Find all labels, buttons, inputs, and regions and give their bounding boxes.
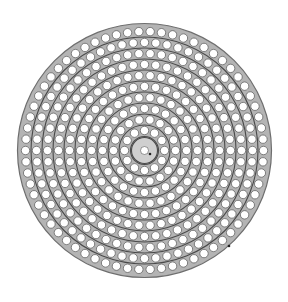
- hole: [171, 146, 179, 154]
- hole: [218, 56, 226, 64]
- hole: [189, 168, 197, 176]
- hole: [85, 114, 93, 122]
- hole: [97, 72, 105, 80]
- hole: [198, 68, 206, 76]
- marker-dot: [149, 153, 152, 156]
- hole: [117, 126, 125, 134]
- hole: [97, 221, 105, 229]
- hole: [193, 78, 201, 86]
- hole: [46, 124, 54, 132]
- hole: [221, 219, 229, 227]
- hole: [208, 179, 216, 187]
- hole: [169, 157, 177, 165]
- hole: [168, 31, 176, 39]
- hole: [237, 158, 245, 166]
- hole: [23, 169, 31, 177]
- hole: [214, 135, 222, 143]
- hole: [135, 243, 143, 251]
- hole: [152, 39, 160, 47]
- hole: [66, 189, 74, 197]
- hole: [112, 239, 120, 247]
- hole: [151, 209, 159, 217]
- hole: [85, 197, 93, 205]
- hole: [151, 187, 159, 195]
- hole: [259, 135, 267, 143]
- hole: [103, 81, 111, 89]
- hole: [259, 146, 267, 154]
- hole: [97, 177, 105, 185]
- hole: [61, 113, 69, 121]
- hole: [150, 164, 158, 172]
- hole: [189, 62, 197, 70]
- hole: [193, 215, 201, 223]
- hole: [215, 189, 223, 197]
- hole: [234, 92, 242, 100]
- hole: [135, 221, 143, 229]
- hole: [201, 207, 209, 215]
- hole: [71, 49, 79, 57]
- hole: [228, 210, 236, 218]
- hole: [200, 168, 208, 176]
- hole: [111, 157, 119, 165]
- hole: [55, 135, 63, 143]
- hole: [44, 158, 52, 166]
- hole: [157, 29, 165, 37]
- hole: [60, 219, 68, 227]
- hole: [101, 259, 109, 267]
- hole: [200, 124, 208, 132]
- hole: [73, 114, 81, 122]
- hole: [111, 117, 119, 125]
- hole: [22, 135, 30, 143]
- hole: [47, 92, 55, 100]
- hole: [146, 243, 154, 251]
- hole: [234, 220, 242, 228]
- hole: [33, 135, 41, 143]
- hole: [176, 107, 184, 115]
- hole: [65, 146, 73, 154]
- hole: [118, 63, 126, 71]
- hole: [77, 135, 85, 143]
- hole: [163, 41, 171, 49]
- hole: [234, 200, 242, 208]
- hole: [157, 197, 165, 205]
- hole: [248, 146, 256, 154]
- hole: [44, 135, 52, 143]
- hole: [167, 100, 175, 108]
- hole: [78, 104, 86, 112]
- hole: [109, 146, 117, 154]
- hole: [168, 239, 176, 247]
- hole: [239, 190, 247, 198]
- hole: [190, 38, 198, 46]
- hole: [86, 53, 94, 61]
- hole: [156, 173, 164, 181]
- hole: [102, 235, 110, 243]
- hole: [173, 226, 181, 234]
- hole: [99, 97, 107, 105]
- hole: [85, 95, 93, 103]
- hole: [170, 176, 178, 184]
- hole: [91, 38, 99, 46]
- hole: [183, 221, 191, 229]
- hole: [246, 169, 254, 177]
- hole: [105, 186, 113, 194]
- hole: [124, 219, 132, 227]
- hole: [76, 146, 84, 154]
- hole: [118, 229, 126, 237]
- hole: [157, 73, 165, 81]
- hole: [237, 135, 245, 143]
- hole: [226, 135, 234, 143]
- hole: [124, 73, 132, 81]
- hole: [156, 119, 164, 127]
- hole: [178, 211, 186, 219]
- hole: [77, 234, 85, 242]
- hole: [108, 202, 116, 210]
- hole: [129, 106, 137, 114]
- hole: [35, 124, 43, 132]
- hole: [62, 236, 70, 244]
- hole: [80, 168, 88, 176]
- hole: [35, 201, 43, 209]
- hole: [62, 56, 70, 64]
- hole: [208, 114, 216, 122]
- hole: [91, 255, 99, 263]
- hole: [88, 215, 96, 223]
